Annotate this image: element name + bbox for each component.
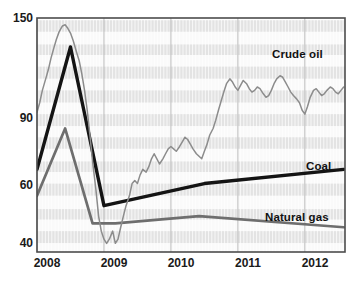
x-axis-tick-2009: 2009	[84, 256, 144, 270]
y-axis-tick-90: 90	[0, 111, 33, 125]
price-index-line-chart	[0, 0, 360, 284]
series-label-coal: Coal	[306, 160, 331, 172]
y-axis-tick-60: 60	[0, 178, 33, 192]
series-label-crude-oil: Crude oil	[272, 48, 323, 60]
x-axis-tick-2011: 2011	[218, 256, 278, 270]
x-axis-tick-2008: 2008	[17, 256, 77, 270]
y-axis-tick-40: 40	[0, 236, 33, 250]
x-axis-tick-2012: 2012	[285, 256, 345, 270]
series-label-natural-gas: Natural gas	[265, 211, 329, 223]
x-axis-tick-2010: 2010	[151, 256, 211, 270]
chart-container: 150 90 60 40 2008 2009 2010 2011 2012 Cr…	[0, 0, 360, 284]
y-axis-tick-150: 150	[0, 11, 33, 25]
